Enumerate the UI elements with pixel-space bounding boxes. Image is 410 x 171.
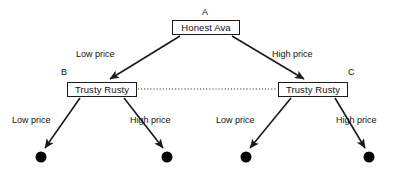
edge-a-b bbox=[110, 36, 180, 79]
edge-label-low-price-c-left: Low price bbox=[216, 115, 255, 126]
terminal-node bbox=[364, 152, 375, 163]
edge-label-low-price-b-left: Low price bbox=[12, 115, 51, 126]
edge-label-high-price-b-right: High price bbox=[130, 115, 171, 126]
edge-c-t3 bbox=[250, 98, 291, 148]
edge-label-low-price-a-b: Low price bbox=[76, 49, 115, 60]
node-box-c: Trusty Rusty bbox=[278, 82, 348, 97]
node-tag-b: B bbox=[61, 67, 67, 77]
terminal-node bbox=[36, 152, 47, 163]
node-box-b: Trusty Rusty bbox=[67, 82, 137, 97]
node-tag-c: C bbox=[348, 67, 355, 77]
terminal-node bbox=[241, 152, 252, 163]
node-tag-a: A bbox=[202, 7, 208, 17]
edge-label-high-price-a-c: High price bbox=[272, 49, 313, 60]
edge-label-high-price-c-right: High price bbox=[336, 115, 377, 126]
game-tree-diagram: Honest Ava A Trusty Rusty B Trusty Rusty… bbox=[0, 0, 410, 171]
node-box-a: Honest Ava bbox=[172, 20, 240, 35]
terminal-node bbox=[162, 152, 173, 163]
